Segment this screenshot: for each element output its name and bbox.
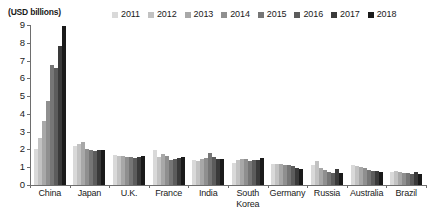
legend-item[interactable]: 2013	[185, 10, 214, 19]
x-axis-label: India	[199, 188, 218, 199]
bar[interactable]	[101, 150, 105, 185]
bar-cluster	[228, 25, 268, 185]
bar[interactable]	[62, 26, 66, 185]
x-axis-tick	[307, 185, 308, 188]
plot-area: 0123456789	[30, 25, 426, 185]
bar-cluster	[386, 25, 426, 185]
legend-swatch-icon	[368, 12, 374, 18]
bar-cluster	[149, 25, 189, 185]
legend-swatch-icon	[148, 12, 154, 18]
y-axis-tick-label: 1	[20, 162, 25, 172]
y-axis-tick-label: 7	[20, 56, 25, 66]
legend-swatch-icon	[294, 12, 300, 18]
y-axis-tick-label: 6	[20, 74, 25, 84]
legend-label: 2017	[340, 10, 360, 19]
bar-cluster	[307, 25, 347, 185]
x-axis-tick	[426, 185, 427, 188]
y-axis-tick-label: 3	[20, 127, 25, 137]
x-axis-tick	[188, 185, 189, 188]
legend-swatch-icon	[112, 12, 118, 18]
legend-swatch-icon	[185, 12, 191, 18]
bar[interactable]	[181, 157, 185, 185]
x-axis-tick	[268, 185, 269, 188]
legend-label: 2018	[377, 10, 397, 19]
legend-item[interactable]: 2015	[258, 10, 287, 19]
legend-label: 2013	[194, 10, 214, 19]
y-axis-tick-label: 5	[20, 91, 25, 101]
bar-chart: (USD billions) 2011201220132014201520162…	[0, 0, 432, 224]
bar-cluster	[188, 25, 228, 185]
legend-label: 2014	[230, 10, 250, 19]
y-axis-unit-title: (USD billions)	[8, 7, 61, 17]
bar-cluster	[30, 25, 70, 185]
x-axis-label: Russia	[314, 188, 340, 199]
x-axis-tick	[109, 185, 110, 188]
x-axis-tick	[30, 185, 31, 188]
bar-cluster	[109, 25, 149, 185]
bar[interactable]	[299, 169, 303, 185]
y-axis-tick-label: 0	[20, 180, 25, 190]
bar[interactable]	[220, 159, 224, 185]
legend-label: 2015	[267, 10, 287, 19]
x-axis-label: Japan	[78, 188, 102, 199]
x-axis-tick	[149, 185, 150, 188]
x-axis-label: China	[39, 188, 62, 199]
bar-cluster	[347, 25, 387, 185]
x-axis-tick	[70, 185, 71, 188]
legend-swatch-icon	[331, 12, 337, 18]
legend-label: 2012	[157, 10, 177, 19]
x-axis-label: Australia	[350, 188, 383, 199]
legend-label: 2011	[121, 10, 140, 19]
legend-item[interactable]: 2012	[148, 10, 177, 19]
x-axis-label: South Korea	[236, 188, 259, 209]
legend-item[interactable]: 2018	[368, 10, 397, 19]
x-axis-label: U.K.	[121, 188, 138, 199]
bar[interactable]	[260, 158, 264, 185]
bar[interactable]	[339, 173, 343, 185]
bar-cluster	[70, 25, 110, 185]
bar-cluster	[268, 25, 308, 185]
legend-item[interactable]: 2014	[221, 10, 250, 19]
legend-item[interactable]: 2017	[331, 10, 360, 19]
x-axis-tick	[228, 185, 229, 188]
x-axis-tick	[347, 185, 348, 188]
legend-item[interactable]: 2016	[294, 10, 323, 19]
x-axis-tick	[386, 185, 387, 188]
legend-swatch-icon	[258, 12, 264, 18]
legend-swatch-icon	[221, 12, 227, 18]
y-axis-tick-label: 9	[20, 20, 25, 30]
legend-item[interactable]: 2011	[112, 10, 140, 19]
bar[interactable]	[141, 156, 145, 185]
x-axis-label: Brazil	[396, 188, 417, 199]
y-axis-tick-label: 2	[20, 145, 25, 155]
x-axis-label: Germany	[270, 188, 306, 199]
y-axis-tick-label: 4	[20, 109, 25, 119]
legend-label: 2016	[303, 10, 323, 19]
x-axis-label: France	[155, 188, 182, 199]
bar[interactable]	[379, 172, 383, 185]
chart-legend: 20112012201320142015201620172018	[112, 8, 396, 21]
bar[interactable]	[418, 174, 422, 185]
y-axis-tick-label: 8	[20, 38, 25, 48]
